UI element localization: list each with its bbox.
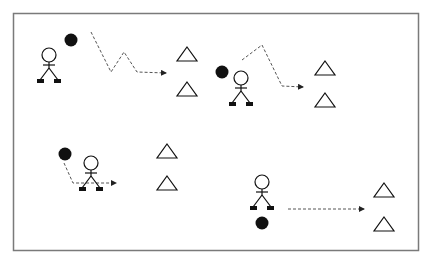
drill-diagram [0, 0, 430, 262]
puck-icon [216, 66, 229, 79]
puck-icon [59, 148, 72, 161]
diagram-frame [14, 14, 419, 251]
puck-icon [65, 34, 78, 47]
puck-icon [256, 217, 269, 230]
